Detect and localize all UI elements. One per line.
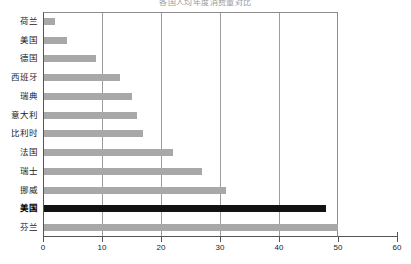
x-tick-label-10: 10 [98, 243, 107, 252]
category-label: 德国 [0, 54, 38, 63]
plot-area [43, 12, 338, 237]
category-label: 瑞士 [0, 167, 38, 176]
bar [44, 130, 143, 137]
chart-title: 各国人均年度消费量对比 [0, 0, 411, 6]
x-axis-extension [338, 236, 398, 237]
x-tick-label-60: 60 [393, 243, 402, 252]
bar [44, 55, 96, 62]
x-tick-mark-60 [397, 237, 398, 242]
category-label: 比利时 [0, 129, 38, 138]
bar [44, 149, 173, 156]
bar [44, 168, 202, 175]
x-tick-mark-50 [338, 237, 339, 242]
bar [44, 112, 137, 119]
gridline-20 [161, 13, 162, 236]
x-tick-mark-10 [102, 237, 103, 242]
x-tick-mark-20 [161, 237, 162, 242]
category-label: 美国 [0, 204, 38, 213]
x-tick-label-0: 0 [41, 243, 45, 252]
category-label: 西班牙 [0, 73, 38, 82]
bar [44, 93, 132, 100]
category-label: 美国 [0, 36, 38, 45]
x-tick-label-40: 40 [275, 243, 284, 252]
x-tick-mark-30 [220, 237, 221, 242]
gridline-40 [279, 13, 280, 236]
gridline-30 [220, 13, 221, 236]
x-tick-label-20: 20 [157, 243, 166, 252]
bar [44, 224, 338, 231]
gridline-10 [102, 13, 103, 236]
category-label: 意大利 [0, 111, 38, 120]
bar [44, 205, 326, 212]
x-tick-mark-40 [279, 237, 280, 242]
category-label: 法国 [0, 148, 38, 157]
category-label: 荷兰 [0, 17, 38, 26]
bar [44, 74, 120, 81]
bar [44, 37, 67, 44]
bar [44, 18, 55, 25]
x-tick-mark-0 [43, 237, 44, 242]
bar-chart: 各国人均年度消费量对比 0102030405060 荷兰美国德国西班牙瑞典意大利… [0, 0, 411, 264]
x-tick-label-30: 30 [216, 243, 225, 252]
category-label: 芬兰 [0, 223, 38, 232]
bar [44, 187, 226, 194]
category-label: 挪威 [0, 186, 38, 195]
category-label: 瑞典 [0, 92, 38, 101]
x-tick-label-50: 50 [334, 243, 343, 252]
